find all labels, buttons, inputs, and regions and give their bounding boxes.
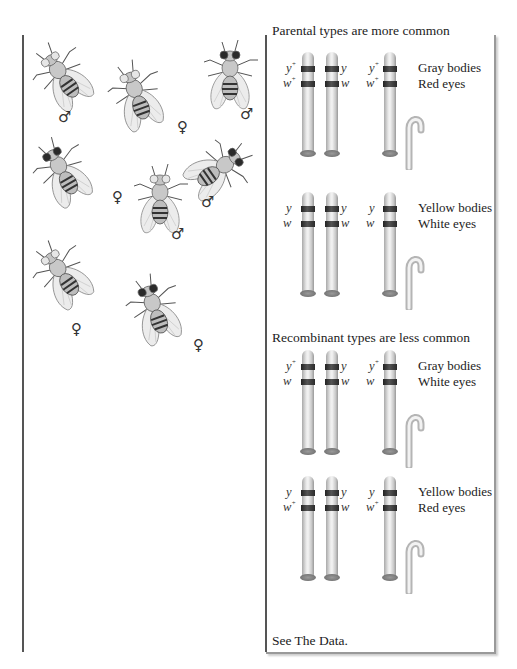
gene-label: y [341,61,347,76]
fly-female-light-eyes [96,50,180,148]
centromere [300,574,316,581]
centromere [382,150,398,157]
chromosome-offspring [384,52,396,157]
chromosome-parent-2 [326,192,338,297]
locus-band-y [301,206,315,212]
chromosome-parent-2 [326,350,338,455]
locus-band-y [383,66,397,72]
centromere [300,290,316,297]
male-symbol-icon: ♂ [171,227,184,242]
chromosome-parent-2 [326,476,338,581]
chromosome-parent-1 [302,192,314,297]
gene-label: w [366,374,374,389]
locus-band-y [325,66,339,72]
chromosome-offspring [384,476,396,581]
centromere [324,290,340,297]
gene-label: y+ [286,359,296,374]
gene-label: y [341,201,347,216]
left-divider [22,35,24,652]
y-chromosome-hook [403,538,425,598]
gene-label: y [286,201,292,216]
phenotype-label: Gray bodiesWhite eyes [418,358,481,390]
centromere [382,574,398,581]
locus-band-w [325,81,339,87]
locus-band-w [325,221,339,227]
locus-band-y [325,206,339,212]
female-symbol-icon: ♀ [112,190,123,205]
gene-label: w+ [283,76,296,91]
phenotype-label: Yellow bodiesRed eyes [418,484,492,516]
locus-band-y [383,206,397,212]
locus-band-y [383,364,397,370]
locus-band-y [383,490,397,496]
chromosome-offspring [384,350,396,455]
centromere [324,448,340,455]
gene-label: w [341,216,349,231]
male-symbol-icon: ♂ [58,110,71,125]
gene-label: y [341,359,347,374]
chromosome-parent-1 [302,350,314,455]
phenotype-label: Yellow bodiesWhite eyes [418,200,492,232]
locus-band-y [301,364,315,370]
chromosome-parent-1 [302,52,314,157]
phenotype-label: Gray bodiesRed eyes [418,60,481,92]
gene-label: y [369,201,375,216]
gene-label: w [341,76,349,91]
centromere [324,150,340,157]
see-the-data-link[interactable]: See The Data. [272,633,348,649]
locus-band-w [325,379,339,385]
gene-label: w+ [366,76,379,91]
gene-label: w [341,500,349,515]
locus-band-y [325,364,339,370]
gene-label: w [366,216,374,231]
fly-female-dark-eyes [18,124,111,225]
gene-label: y [369,485,375,500]
locus-band-w [301,81,315,87]
chromosome-parent-2 [326,52,338,157]
locus-band-w [383,81,397,87]
y-chromosome-hook [403,114,425,174]
male-symbol-icon: ♂ [201,195,214,210]
locus-band-w [383,221,397,227]
locus-band-y [301,490,315,496]
gene-label: y+ [369,359,379,374]
fly-female-dark-eyes [114,264,198,362]
centromere [300,448,316,455]
locus-band-w [301,379,315,385]
locus-band-w [383,379,397,385]
gene-label: y+ [369,61,379,76]
chromosome-offspring [384,192,396,297]
gene-label: w+ [283,500,296,515]
chromosome-parent-1 [302,476,314,581]
female-symbol-icon: ♀ [177,120,188,135]
gene-label: w+ [366,500,379,515]
gene-label: y+ [286,61,296,76]
centromere [382,448,398,455]
locus-band-w [325,505,339,511]
locus-band-w [301,505,315,511]
gene-label: w [283,374,291,389]
locus-band-w [301,221,315,227]
centromere [382,290,398,297]
locus-band-y [301,66,315,72]
section-title: Parental types are more common [272,23,450,39]
female-symbol-icon: ♀ [71,322,82,337]
gene-label: y [286,485,292,500]
centromere [300,150,316,157]
gene-label: w [283,216,291,231]
male-symbol-icon: ♂ [240,107,253,122]
y-chromosome-hook [403,412,425,472]
locus-band-w [383,505,397,511]
centromere [324,574,340,581]
gene-label: w [341,374,349,389]
female-symbol-icon: ♀ [193,338,204,353]
locus-band-y [325,490,339,496]
gene-label: y [341,485,347,500]
y-chromosome-hook [403,254,425,314]
fly-female-light-eyes [16,226,112,328]
section-title: Recombinant types are less common [272,330,470,346]
